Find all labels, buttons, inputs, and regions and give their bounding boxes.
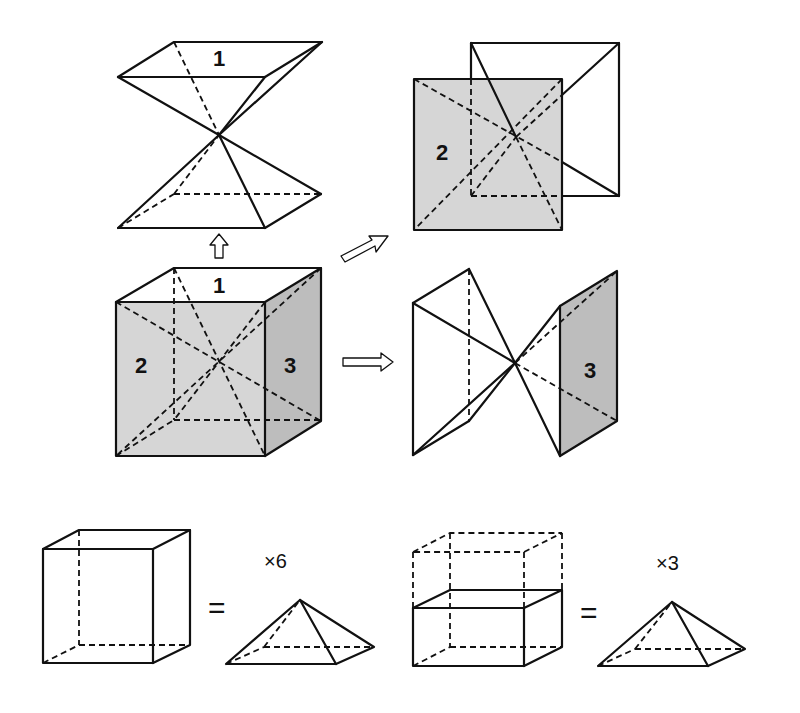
- face-label-1: 1: [213, 46, 225, 71]
- equation-half-cube-three-pyramids: = ×3: [413, 533, 745, 666]
- arrow-up-icon: [210, 234, 228, 258]
- face-label-2: 2: [135, 353, 147, 378]
- equation-cube-six-pyramids: = ×6: [43, 530, 374, 664]
- pyramids-face-1: 1: [118, 42, 322, 228]
- pyramids-face-3: 3: [413, 269, 617, 456]
- multiplier-3: ×3: [656, 552, 679, 574]
- pyramids-face-2: 2: [414, 43, 619, 230]
- face-label-3: 3: [584, 358, 596, 383]
- equals-sign: =: [580, 596, 598, 629]
- arrow-up-right-icon: [341, 236, 388, 262]
- cube-dissection-diagram: 1 1 2 3: [0, 0, 800, 713]
- multiplier-6: ×6: [264, 550, 287, 572]
- face-label-1: 1: [213, 273, 225, 298]
- face-label-2: 2: [436, 140, 448, 165]
- equals-sign: =: [208, 591, 226, 624]
- cube-with-diagonals: 1 2 3: [116, 268, 321, 456]
- face-label-3: 3: [284, 353, 296, 378]
- arrow-right-icon: [343, 353, 393, 371]
